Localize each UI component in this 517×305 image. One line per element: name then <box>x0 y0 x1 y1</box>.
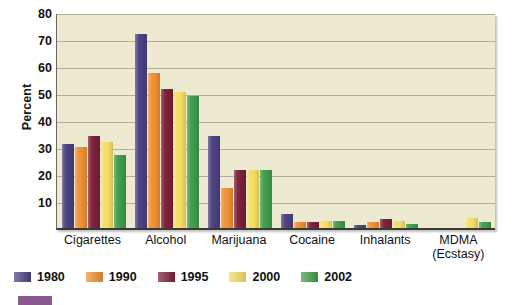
legend-swatch-1990 <box>86 272 103 282</box>
x-label-cigarettes: Cigarettes <box>56 233 129 247</box>
x-label-line1: Marijuana <box>211 233 266 247</box>
bar-2000-inhalants <box>393 221 405 228</box>
y-axis-tick-10: 10 <box>38 197 52 210</box>
chart-legend: 19801990199520002002 <box>14 271 373 284</box>
legend-item-2002[interactable]: 2002 <box>301 271 352 284</box>
bar-1995-cocaine <box>307 222 319 228</box>
x-label-line1: Cocaine <box>289 233 335 247</box>
y-axis-tick-80: 80 <box>38 8 52 21</box>
x-axis-category-labels: CigarettesAlcoholMarijuanaCocaineInhalan… <box>56 233 495 273</box>
bar-2000-marijuana <box>247 170 259 228</box>
bar-1995-alcohol <box>161 89 173 228</box>
x-label-cocaine: Cocaine <box>276 233 349 247</box>
bar-1980-cocaine <box>281 214 293 228</box>
y-axis-tick-60: 60 <box>38 62 52 75</box>
bar-2002-cigarettes <box>114 155 126 228</box>
x-label-marijuana: Marijuana <box>202 233 275 247</box>
x-label-line2: (Ecstasy) <box>422 247 495 261</box>
legend-swatch-1980 <box>14 272 31 282</box>
bar-1980-alcohol <box>135 34 147 228</box>
bar-2002-inhalants <box>406 224 418 228</box>
bottom-edge-swatch <box>18 296 52 305</box>
x-label-line1: Inhalants <box>360 233 411 247</box>
bar-1990-cocaine <box>294 222 306 228</box>
bar-2002-mdma-ecstasy <box>479 222 491 228</box>
bar-1980-inhalants <box>354 225 366 228</box>
bar-2000-cigarettes <box>101 142 113 228</box>
bar-1980-marijuana <box>208 136 220 228</box>
legend-swatch-2000 <box>229 272 246 282</box>
bar-2002-marijuana <box>260 170 272 228</box>
x-label-alcohol: Alcohol <box>129 233 202 247</box>
legend-label-1980: 1980 <box>37 271 65 284</box>
legend-item-1980[interactable]: 1980 <box>14 271 65 284</box>
legend-label-2000: 2000 <box>252 271 280 284</box>
bar-1980-cigarettes <box>62 144 74 228</box>
x-label-mdma-ecstasy: MDMA(Ecstasy) <box>422 233 495 261</box>
bar-2002-alcohol <box>187 96 199 228</box>
bar-1995-marijuana <box>234 170 246 228</box>
bar-groups <box>57 14 495 228</box>
bar-2002-cocaine <box>333 221 345 228</box>
x-label-line1: MDMA <box>439 233 477 247</box>
bar-group-mdma-ecstasy <box>423 14 496 228</box>
x-label-line1: Cigarettes <box>64 233 121 247</box>
y-axis-tick-20: 20 <box>38 170 52 183</box>
legend-item-1990[interactable]: 1990 <box>86 271 137 284</box>
y-axis-tick-labels: 1020304050607080 <box>26 14 52 230</box>
legend-swatch-1995 <box>158 272 175 282</box>
bar-1995-cigarettes <box>88 136 100 228</box>
y-axis-tick-70: 70 <box>38 35 52 48</box>
y-axis-tick-30: 30 <box>38 143 52 156</box>
bar-group-inhalants <box>350 14 423 228</box>
bar-1995-inhalants <box>380 219 392 228</box>
bar-group-cigarettes <box>57 14 130 228</box>
bar-1990-inhalants <box>367 222 379 228</box>
bar-1990-alcohol <box>148 73 160 228</box>
y-axis-tick-50: 50 <box>38 89 52 102</box>
plot-area <box>56 14 495 230</box>
legend-item-2000[interactable]: 2000 <box>229 271 280 284</box>
bar-1990-marijuana <box>221 188 233 229</box>
legend-label-1995: 1995 <box>181 271 209 284</box>
legend-label-2002: 2002 <box>324 271 352 284</box>
legend-swatch-2002 <box>301 272 318 282</box>
bar-2000-mdma-ecstasy <box>466 218 478 228</box>
legend-label-1990: 1990 <box>109 271 137 284</box>
bar-1990-cigarettes <box>75 147 87 228</box>
bar-2000-alcohol <box>174 92 186 228</box>
legend-item-1995[interactable]: 1995 <box>158 271 209 284</box>
bar-2000-cocaine <box>320 221 332 228</box>
x-label-line1: Alcohol <box>145 233 186 247</box>
bar-group-marijuana <box>203 14 276 228</box>
y-axis-tick-40: 40 <box>38 116 52 129</box>
x-label-inhalants: Inhalants <box>349 233 422 247</box>
bar-group-alcohol <box>130 14 203 228</box>
bar-group-cocaine <box>277 14 350 228</box>
